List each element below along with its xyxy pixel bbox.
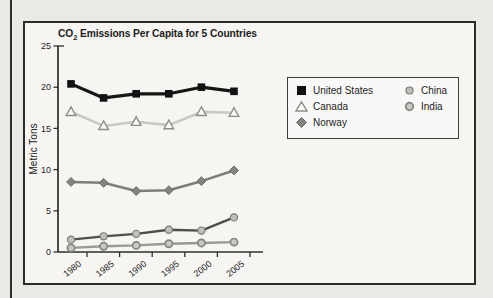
y-tick-label: 25 xyxy=(41,41,51,51)
y-axis-title: Metric Tons xyxy=(28,124,39,175)
us-marker-shape xyxy=(297,86,306,95)
chart-plot-area: 0510152025Metric Tons1980198519901995200… xyxy=(25,23,474,283)
x-tick-label: 1985 xyxy=(94,259,116,279)
x-tick-label: 1980 xyxy=(61,259,83,279)
legend-item-china: China xyxy=(403,82,447,98)
china-marker-shape xyxy=(406,87,413,94)
legend-item-canada: Canada xyxy=(295,98,348,114)
circle-marker-icon xyxy=(403,84,416,97)
legend-label: Canada xyxy=(313,101,348,112)
page-border-rule xyxy=(10,0,12,298)
triangle-marker-icon xyxy=(295,100,308,113)
legend-label: China xyxy=(421,85,447,96)
y-tick-label: 10 xyxy=(41,165,51,175)
series-china xyxy=(67,214,237,243)
y-tick-label: 15 xyxy=(41,124,51,134)
legend-label: Norway xyxy=(313,117,347,128)
legend-item-united-states: United States xyxy=(295,82,373,98)
y-tick-label: 5 xyxy=(46,206,51,216)
x-tick-label: 2005 xyxy=(224,259,246,279)
chart-frame: CO2 Emissions Per Capita for 5 Countries… xyxy=(23,21,476,285)
y-tick-label: 20 xyxy=(41,82,51,92)
legend-label: United States xyxy=(313,85,373,96)
series-united-states xyxy=(67,80,238,102)
india-marker-shape xyxy=(406,102,414,110)
y-tick-label: 0 xyxy=(46,247,51,257)
page-background: { "colors": { "page_bg": "#ebe9e6", "cha… xyxy=(0,0,493,298)
series-canada xyxy=(66,107,239,130)
ring-circle-marker-icon xyxy=(403,100,416,113)
diamond-marker-icon xyxy=(295,116,308,129)
x-tick-label: 1990 xyxy=(126,259,148,279)
series-india xyxy=(67,239,237,252)
legend-label: India xyxy=(421,101,443,112)
x-axis: 198019851990199520002005 xyxy=(58,252,263,279)
y-axis: 0510152025Metric Tons xyxy=(28,41,64,257)
canada-marker-shape xyxy=(296,101,307,110)
norway-marker-shape xyxy=(297,117,307,127)
x-tick-label: 2000 xyxy=(192,259,214,279)
legend: United States Canada Norway China India xyxy=(287,77,459,139)
square-marker-icon xyxy=(295,84,308,97)
series-norway xyxy=(67,166,239,195)
legend-item-india: India xyxy=(403,98,443,114)
legend-item-norway: Norway xyxy=(295,114,347,130)
x-tick-label: 1995 xyxy=(159,259,181,279)
